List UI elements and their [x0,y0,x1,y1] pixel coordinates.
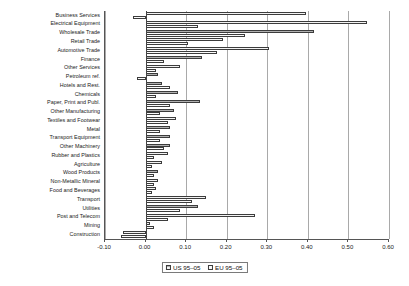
bar-us [146,214,256,217]
category-label: Mining [0,221,104,230]
x-tick [347,239,348,242]
bar-eu [146,104,170,107]
bar-eu [146,34,245,37]
bar-eu [137,77,145,80]
x-tick-label: 0.50 [342,244,354,250]
bar-us [146,170,158,173]
bar-eu [133,16,145,19]
bar-us [146,126,170,129]
category-label: Agriculture [0,160,104,169]
category-label: Electrical Equipment [0,20,104,29]
bar-eu [146,226,154,229]
bar-row [105,72,389,81]
category-axis: Business ServicesElectrical EquipmentWho… [0,11,104,239]
bar-row [105,213,389,222]
bar-row [105,195,389,204]
bar-us [146,21,367,24]
category-label: Rubber and Plastics [0,151,104,160]
x-tick [388,239,389,242]
bar-eu [146,183,154,186]
category-label: Business Services [0,11,104,20]
bar-us [146,82,162,85]
bar-eu [146,200,193,203]
bar-eu [146,121,168,124]
bar-row [105,81,389,90]
legend-item[interactable]: EU 95–05 [208,264,243,271]
legend-label: US 95–05 [173,264,201,271]
category-label: Utilities [0,204,104,213]
bar-row [105,29,389,38]
bar-row [105,46,389,55]
bar-eu [146,156,154,159]
legend-swatch-icon [208,265,213,270]
bar-row [105,160,389,169]
gridline [389,11,390,239]
bar-us [146,205,199,208]
category-label: Finance [0,55,104,64]
bar-row [105,99,389,108]
x-tick-label: 0.60 [382,244,394,250]
bar-us [146,12,306,15]
bar-eu [146,139,160,142]
bar-row [105,204,389,213]
bar-row [105,151,389,160]
bar-row [105,37,389,46]
category-label: Other Machinery [0,142,104,151]
bar-row [105,64,389,73]
chart-legend: US 95–05EU 95–05 [161,262,247,273]
x-tick-label: 0.30 [260,244,272,250]
x-tick-label: 0.00 [139,244,151,250]
bar-row [105,186,389,195]
bar-eu [146,51,217,54]
zero-line [146,11,147,239]
category-label: Metal [0,125,104,134]
x-tick [145,239,146,242]
bar-us [123,231,145,234]
bar-us [146,73,158,76]
category-label: Non-Metallic Mineral [0,178,104,187]
bar-eu [146,174,154,177]
bar-us [146,91,178,94]
bar-us [146,187,156,190]
bar-row [105,55,389,64]
category-label: Retail Trade [0,37,104,46]
bar-eu [146,130,160,133]
bar-eu [146,60,164,63]
bar-us [146,109,174,112]
x-tick [266,239,267,242]
bar-row [105,107,389,116]
bar-us [146,65,180,68]
bar-row [105,230,389,239]
bar-row [105,221,389,230]
bar-eu [146,95,156,98]
category-label: Transport Equipment [0,134,104,143]
bar-us [146,179,158,182]
bar-eu [146,218,168,221]
x-tick-label: 0.40 [301,244,313,250]
legend-item[interactable]: US 95–05 [165,264,200,271]
bar-rows [105,11,389,239]
x-tick-label: 0.10 [179,244,191,250]
bar-row [105,116,389,125]
x-tick [226,239,227,242]
category-label: Textiles and Footwear [0,116,104,125]
bar-eu [146,209,180,212]
category-label: Chemicals [0,90,104,99]
bar-row [105,90,389,99]
plot-area [104,11,389,239]
bar-row [105,178,389,187]
bar-row [105,134,389,143]
bar-us [146,144,170,147]
bar-eu [146,112,160,115]
bar-us [146,100,201,103]
bar-eu [146,69,156,72]
category-label: Petroleum ref. [0,72,104,81]
x-tick [104,239,105,242]
bar-row [105,125,389,134]
category-label: Other Services [0,64,104,73]
bar-row [105,169,389,178]
bar-eu [146,147,164,150]
category-label: Paper, Print and Publ. [0,99,104,108]
bar-us [146,161,162,164]
bar-eu [121,235,145,238]
